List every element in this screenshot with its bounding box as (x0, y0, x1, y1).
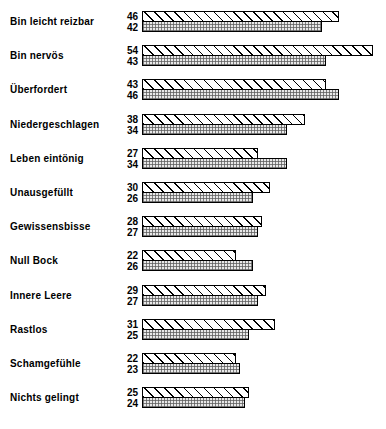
bar-chart: Bin leicht reizbar4642Bin nervös5443Über… (0, 0, 386, 429)
value-label-series-1: 38 (110, 114, 138, 125)
row-category-label: Innere Leere (10, 288, 118, 304)
value-label-series-1: 30 (110, 182, 138, 193)
row-value-labels: 4642 (110, 11, 138, 33)
bar-series-2 (142, 363, 240, 374)
row-value-labels: 2524 (110, 387, 138, 409)
row-value-labels: 4346 (110, 79, 138, 101)
value-label-series-1: 22 (110, 250, 138, 261)
row-value-labels: 3834 (110, 114, 138, 136)
row-value-labels: 2927 (110, 285, 138, 307)
row-category-label: Bin leicht reizbar (10, 14, 118, 30)
chart-row: Bin nervös5443 (0, 45, 386, 67)
chart-row: Schamgefühle2223 (0, 353, 386, 375)
chart-row: Innere Leere2927 (0, 285, 386, 307)
chart-row: Null Bock2226 (0, 250, 386, 272)
row-category-label: Gewissensbisse (10, 219, 118, 235)
row-value-labels: 3125 (110, 319, 138, 341)
value-label-series-2: 24 (110, 398, 138, 409)
value-label-series-1: 43 (110, 79, 138, 90)
value-label-series-1: 28 (110, 216, 138, 227)
value-label-series-1: 25 (110, 387, 138, 398)
value-label-series-1: 54 (110, 45, 138, 56)
chart-row: Unausgefüllt3026 (0, 182, 386, 204)
value-label-series-2: 23 (110, 364, 138, 375)
row-value-labels: 2827 (110, 216, 138, 238)
bar-series-2 (142, 55, 326, 66)
row-category-label: Nichts gelingt (10, 390, 118, 406)
bar-series-2 (142, 260, 253, 271)
value-label-series-1: 27 (110, 148, 138, 159)
bar-series-2 (142, 397, 245, 408)
row-value-labels: 2226 (110, 250, 138, 272)
value-label-series-2: 34 (110, 125, 138, 136)
value-label-series-2: 34 (110, 159, 138, 170)
bar-series-2 (142, 124, 287, 135)
row-value-labels: 2223 (110, 353, 138, 375)
value-label-series-1: 31 (110, 319, 138, 330)
row-category-label: Schamgefühle (10, 356, 118, 372)
row-category-label: Überfordert (10, 82, 118, 98)
bar-series-2 (142, 21, 322, 32)
chart-row: Niedergeschlagen3834 (0, 114, 386, 136)
bar-series-2 (142, 158, 287, 169)
value-label-series-1: 46 (110, 11, 138, 22)
row-value-labels: 3026 (110, 182, 138, 204)
value-label-series-2: 27 (110, 227, 138, 238)
row-category-label: Rastlos (10, 322, 118, 338)
value-label-series-1: 29 (110, 285, 138, 296)
value-label-series-2: 25 (110, 330, 138, 341)
value-label-series-2: 43 (110, 56, 138, 67)
chart-row: Gewissensbisse2827 (0, 216, 386, 238)
bar-series-2 (142, 192, 253, 203)
row-value-labels: 5443 (110, 45, 138, 67)
chart-row: Leben eintönig2734 (0, 148, 386, 170)
row-category-label: Niedergeschlagen (10, 117, 118, 133)
row-category-label: Unausgefüllt (10, 185, 118, 201)
chart-row: Nichts gelingt2524 (0, 387, 386, 409)
bar-series-2 (142, 295, 258, 306)
value-label-series-2: 27 (110, 296, 138, 307)
value-label-series-1: 22 (110, 353, 138, 364)
row-category-label: Null Bock (10, 253, 118, 269)
bar-series-2 (142, 89, 339, 100)
row-value-labels: 2734 (110, 148, 138, 170)
row-category-label: Leben eintönig (10, 151, 118, 167)
chart-row: Überfordert4346 (0, 79, 386, 101)
value-label-series-2: 42 (110, 22, 138, 33)
row-category-label: Bin nervös (10, 48, 118, 64)
bar-series-2 (142, 226, 258, 237)
chart-row: Rastlos3125 (0, 319, 386, 341)
bar-series-2 (142, 329, 249, 340)
value-label-series-2: 26 (110, 261, 138, 272)
chart-row: Bin leicht reizbar4642 (0, 11, 386, 33)
value-label-series-2: 46 (110, 90, 138, 101)
value-label-series-2: 26 (110, 193, 138, 204)
